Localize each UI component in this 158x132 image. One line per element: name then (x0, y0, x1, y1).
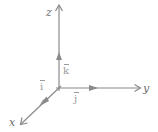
coordinate-diagram: z y x k j i (0, 0, 158, 132)
y-axis-label: y (143, 83, 149, 94)
axes-drawing (0, 0, 158, 132)
j-vector-label: j (74, 92, 79, 104)
k-vector-label: k (63, 64, 69, 76)
z-axis (56, 5, 63, 91)
j-vector-arrow-icon (89, 85, 98, 91)
k-vector-arrow-icon (56, 52, 62, 60)
i-vector-label: i (40, 80, 45, 92)
i-vector-arrow-shape (40, 97, 50, 107)
z-axis-label: z (46, 7, 52, 18)
y-axis (56, 85, 141, 92)
x-axis-label: x (9, 117, 15, 128)
